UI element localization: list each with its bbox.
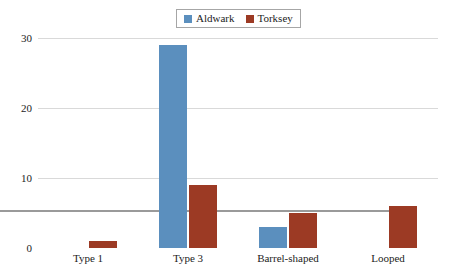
legend-swatch-torksey — [246, 15, 254, 23]
bar-group-type-1 — [38, 38, 138, 248]
bar-torksey-looped[interactable] — [389, 206, 417, 248]
bar-torksey-type-3[interactable] — [189, 185, 217, 248]
y-tick-label-0: 0 — [2, 243, 32, 254]
chart-legend: Aldwark Torksey — [176, 9, 301, 28]
bar-torksey-type-1[interactable] — [89, 241, 117, 248]
legend-swatch-aldwark — [184, 15, 192, 23]
legend-label-aldwark: Aldwark — [196, 13, 235, 24]
bar-group-barrel-shaped — [238, 38, 338, 248]
y-tick-label-20: 20 — [2, 103, 32, 114]
bar-series-container — [38, 38, 438, 248]
legend-item-aldwark[interactable]: Aldwark — [184, 13, 235, 24]
x-tick-label-type-3: Type 3 — [138, 252, 238, 264]
bar-aldwark-type-3[interactable] — [159, 45, 187, 248]
bar-chart: Aldwark Torksey 30 20 10 0 — [0, 0, 451, 280]
y-tick-label-10: 10 — [2, 173, 32, 184]
x-axis-labels: Type 1 Type 3 Barrel-shaped Looped — [38, 252, 438, 264]
x-tick-label-looped: Looped — [338, 252, 438, 264]
bar-group-looped — [338, 38, 438, 248]
y-tick-label-30: 30 — [2, 33, 32, 44]
legend-label-torksey: Torksey — [258, 13, 293, 24]
x-tick-label-type-1: Type 1 — [38, 252, 138, 264]
x-tick-label-barrel-shaped: Barrel-shaped — [238, 252, 338, 264]
legend-item-torksey[interactable]: Torksey — [246, 13, 293, 24]
bar-group-type-3 — [138, 38, 238, 248]
bar-aldwark-barrel-shaped[interactable] — [259, 227, 287, 248]
bar-torksey-barrel-shaped[interactable] — [289, 213, 317, 248]
